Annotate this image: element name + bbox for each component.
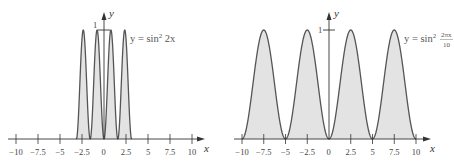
svg-text:−2.5: −2.5 [300,147,315,157]
y-axis-label: y [333,7,339,19]
svg-text:−10: −10 [235,147,248,157]
y-axis [327,12,332,139]
svg-text:0: 0 [327,147,331,157]
equation-label: y = sin2 [404,32,437,44]
x-axis-label: x [429,142,435,154]
svg-text:5: 5 [370,147,374,157]
chart-sin2-2pix-10: 1 −10−7.5−5−2.502.557.510 x y y = sin2 2… [0,0,454,166]
svg-text:2.5: 2.5 [345,147,356,157]
equation-fraction-numerator: 2πx [441,31,452,39]
svg-text:−5: −5 [281,147,290,157]
svg-text:−7.5: −7.5 [256,147,271,157]
svg-text:10: 10 [412,147,421,157]
equation-fraction-denominator: 10 [443,41,451,49]
svg-text:7.5: 7.5 [389,147,400,157]
y-tick-label: 1 [318,25,322,35]
figure: 1 −10−7.5−5−2.502.557.510 x y y = sin2 2… [0,0,454,166]
